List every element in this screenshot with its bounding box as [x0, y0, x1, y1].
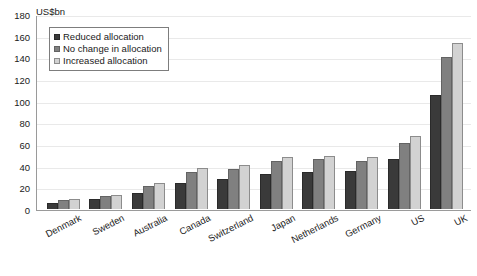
legend: Reduced allocationNo change in allocatio…	[49, 27, 169, 71]
bar[interactable]	[47, 203, 58, 210]
legend-label: Reduced allocation	[63, 31, 144, 43]
legend-swatch-icon	[54, 34, 60, 40]
legend-item[interactable]: Reduced allocation	[54, 31, 162, 43]
legend-swatch-icon	[54, 46, 60, 52]
legend-label: Increased allocation	[63, 55, 148, 67]
x-tick-label: Sweden	[91, 212, 127, 237]
legend-swatch-icon	[54, 58, 60, 64]
bar[interactable]	[388, 159, 399, 209]
bar[interactable]	[452, 43, 463, 209]
bar[interactable]	[302, 172, 313, 209]
bar[interactable]	[430, 95, 441, 209]
bar[interactable]	[441, 57, 452, 209]
bar[interactable]	[89, 199, 100, 209]
bar-group	[255, 16, 298, 209]
bar[interactable]	[228, 169, 239, 209]
bar[interactable]	[260, 174, 271, 209]
bar[interactable]	[313, 159, 324, 209]
y-tick-label: 80	[19, 119, 30, 129]
bar[interactable]	[217, 179, 228, 209]
bar[interactable]	[154, 183, 165, 209]
bar[interactable]	[345, 171, 356, 209]
y-tick-label: 120	[14, 76, 30, 86]
bar[interactable]	[143, 186, 154, 209]
bar[interactable]	[100, 196, 111, 209]
bar[interactable]	[132, 193, 143, 209]
y-tick-label: 100	[14, 98, 30, 108]
y-tick-label: 160	[14, 33, 30, 43]
bar-chart: US$bn 180160140120100806040200 DenmarkSw…	[0, 0, 477, 276]
bar[interactable]	[197, 168, 208, 209]
bar[interactable]	[186, 172, 197, 209]
x-tick-label: Denmark	[44, 212, 83, 239]
bar[interactable]	[399, 143, 410, 209]
x-tick-label: Japan	[269, 212, 297, 234]
y-tick-label: 140	[14, 54, 30, 64]
bar-group	[383, 16, 426, 209]
legend-label: No change in allocation	[63, 43, 162, 55]
y-tick-label: 0	[25, 206, 30, 216]
bar-group	[425, 16, 468, 209]
bar[interactable]	[271, 161, 282, 209]
x-tick-label: Australia	[131, 212, 169, 239]
x-axis-category-labels: DenmarkSwedenAustraliaCanadaSwitzerlandJ…	[37, 212, 472, 274]
x-tick-label: Germany	[343, 212, 383, 240]
bar-group	[212, 16, 255, 209]
x-tick-label: Switzerland	[206, 212, 255, 244]
bar[interactable]	[410, 136, 421, 209]
y-tick-label: 40	[19, 163, 30, 173]
bar-group	[340, 16, 383, 209]
y-axis-tick-labels: 180160140120100806040200	[0, 16, 34, 211]
bar[interactable]	[324, 156, 335, 209]
y-tick-label: 20	[19, 184, 30, 194]
bar-group	[298, 16, 341, 209]
y-tick-label: 60	[19, 141, 30, 151]
bar[interactable]	[356, 161, 367, 209]
x-tick-label: UK	[452, 212, 469, 228]
bar[interactable]	[111, 195, 122, 209]
legend-item[interactable]: No change in allocation	[54, 43, 162, 55]
y-tick-label: 180	[14, 11, 30, 21]
x-tick-label: US	[409, 212, 426, 228]
legend-item[interactable]: Increased allocation	[54, 55, 162, 67]
bar-group	[170, 16, 213, 209]
bar[interactable]	[58, 200, 69, 209]
bar[interactable]	[175, 183, 186, 209]
bar[interactable]	[367, 157, 378, 209]
bar[interactable]	[239, 165, 250, 209]
bar[interactable]	[282, 157, 293, 209]
x-tick-label: Netherlands	[290, 212, 341, 245]
bar[interactable]	[69, 199, 80, 209]
